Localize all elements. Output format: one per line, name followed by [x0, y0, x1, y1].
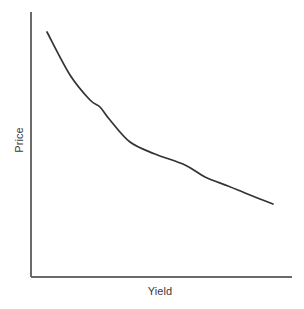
- chart-figure: Price Yield: [0, 0, 304, 309]
- x-axis-label: Yield: [148, 285, 173, 297]
- price-yield-plot: [0, 0, 304, 309]
- y-axis-label: Price: [13, 127, 25, 153]
- price-yield-curve: [47, 32, 273, 204]
